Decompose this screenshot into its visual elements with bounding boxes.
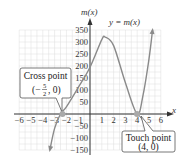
touch-point-coords: (4, 0) xyxy=(138,142,159,153)
cross-point-numerator: 5 xyxy=(43,82,46,89)
x-tick-label: 2 xyxy=(111,115,115,125)
cross-point-callout: Cross point (− 5 2 , 0) xyxy=(20,68,71,112)
cross-point-marker xyxy=(60,111,66,117)
cross-point-open: (− xyxy=(32,85,41,96)
y-tick-label: 250 xyxy=(75,49,88,59)
cross-point-denominator: 2 xyxy=(43,90,46,97)
y-tick-label: −100 xyxy=(70,133,88,143)
cross-point-title: Cross point xyxy=(24,71,68,81)
y-tick-label: 50 xyxy=(80,97,89,107)
x-tick-label: 3 xyxy=(123,115,127,125)
y-tick-label: 200 xyxy=(75,61,88,71)
x-tick-label: −6 xyxy=(15,115,24,125)
y-tick-label: −50 xyxy=(75,121,88,131)
x-tick-label: −5 xyxy=(26,115,35,125)
cross-point-close: , 0) xyxy=(48,85,61,96)
x-tick-label: −4 xyxy=(38,115,48,125)
x-tick-label: 5 xyxy=(147,115,151,125)
y-tick-label: 300 xyxy=(75,37,88,47)
curve-arrow-left-icon xyxy=(48,146,53,152)
chart: −6−5−4−3−2−1123456−150−100−5050100150200… xyxy=(0,0,181,163)
x-tick-label: 1 xyxy=(100,115,104,125)
y-axis-label: m(x) xyxy=(81,7,98,17)
x-tick-label: 6 xyxy=(159,115,163,125)
touch-point-marker xyxy=(134,111,140,117)
y-tick-label: −150 xyxy=(70,145,88,155)
y-axis-arrow-icon xyxy=(88,18,93,25)
y-tick-label: 350 xyxy=(75,25,88,35)
curve-arrow-right-icon xyxy=(150,28,155,34)
curve-label: y = m(x) xyxy=(108,17,140,27)
x-axis-label: x xyxy=(171,105,176,115)
